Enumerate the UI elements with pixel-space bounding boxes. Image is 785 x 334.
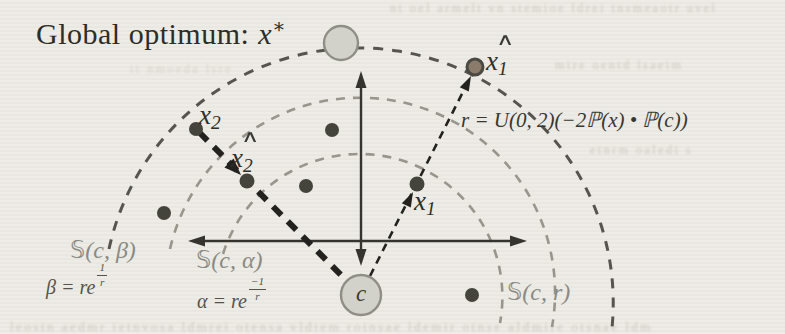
- axis-left-arrowhead: [188, 236, 205, 247]
- x1-arrowhead: [402, 192, 413, 208]
- label-x2hat: x∧2: [231, 143, 253, 177]
- x1hat-arrowhead: [460, 76, 471, 92]
- global-optimum-node: [324, 26, 358, 60]
- axis-right-arrowhead: [510, 236, 527, 247]
- sample-dot: [465, 288, 479, 302]
- label-x2: x2: [199, 100, 221, 134]
- axis-up-arrowhead: [356, 71, 367, 88]
- sample-dot: [157, 206, 171, 220]
- figure-canvas: nt oel armelt vn stemioe ldrei tnsmeaotr…: [0, 0, 785, 334]
- center-label: c: [351, 281, 371, 307]
- beta-formula: β = re1r: [46, 262, 107, 299]
- label-sphere-beta: 𝕊(c, β): [70, 236, 136, 264]
- sample-dot: [325, 123, 339, 137]
- alpha-formula: α = re−1r: [197, 276, 266, 313]
- global-optimum-symbol: x∗: [258, 17, 286, 50]
- figure-title: Global optimum:x∗: [36, 14, 286, 51]
- axis-down-arrowhead: [356, 249, 367, 266]
- label-sphere-r: 𝕊(c, r): [507, 278, 570, 306]
- point-x1hat: [467, 59, 483, 75]
- title-text: Global optimum:: [36, 17, 249, 50]
- label-x1: x1: [414, 186, 436, 220]
- label-sphere-alpha: 𝕊(c, α): [196, 246, 262, 274]
- sample-dot: [299, 179, 313, 193]
- radius-formula: r = U(0, 2)(−2ℙ(x) • ℙ(c)): [461, 108, 688, 133]
- label-x1hat: x∧1: [486, 46, 508, 80]
